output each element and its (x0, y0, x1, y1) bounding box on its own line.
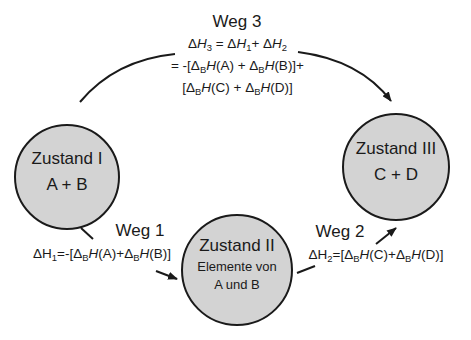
zustand-3-title: Zustand III (346, 140, 446, 157)
weg3-equation-line2: = -[ΔBH(A) + ΔBH(B)]+ (150, 59, 325, 73)
weg1-equation: ΔH1=-[ΔBH(A)+ΔBH(B)] (22, 247, 182, 261)
weg2-arrow (376, 228, 396, 244)
zustand-1-title: Zustand I (17, 150, 117, 167)
weg2-line-start (297, 266, 315, 273)
weg3-label: Weg 3 (200, 13, 274, 30)
zustand-3-content: C + D (346, 166, 446, 183)
zustand-1-content: A + B (17, 176, 117, 193)
zustand-2-title: Zustand II (187, 237, 287, 254)
weg3-equation-line3: [ΔBH(C) + ΔBH(D)] (160, 81, 315, 95)
zustand-2-content-line1: Elemente von (187, 260, 287, 273)
weg1-arrow (156, 271, 177, 279)
weg2-label: Weg 2 (310, 223, 370, 240)
weg1-label: Weg 1 (110, 222, 170, 239)
weg1-line-start (81, 228, 93, 239)
zustand-2-content-line2: A und B (187, 278, 287, 291)
weg2-equation: ΔH2=[ΔBH(C)+ΔBH(D)] (296, 248, 456, 262)
weg3-equation-line1: ΔH3 = ΔH1+ ΔH2 (160, 37, 315, 51)
